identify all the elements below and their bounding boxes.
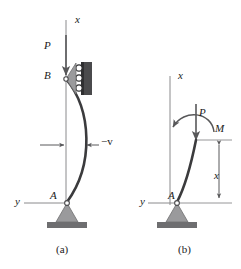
pin-support-b xyxy=(157,201,197,228)
pin-support-a xyxy=(47,201,87,228)
moment-label-m-b: M xyxy=(215,123,224,134)
load-label-p-b: P xyxy=(199,107,206,118)
figure-svg xyxy=(0,0,241,269)
deflection-label-a: −v xyxy=(101,136,113,147)
axis-y-label-b: y xyxy=(140,196,145,207)
axis-y-label-a: y xyxy=(15,196,20,207)
axis-x-label-a: x xyxy=(75,14,80,25)
node-label-b-a: B xyxy=(44,70,51,81)
roller-support-b xyxy=(64,62,92,95)
subfigure-b xyxy=(148,76,232,228)
caption-b: (b) xyxy=(178,243,191,255)
load-label-p-a: P xyxy=(44,40,51,51)
dimension-label-x-b: x xyxy=(214,170,219,181)
buckled-column-curve-a xyxy=(66,79,86,202)
buckled-column-segment-b xyxy=(177,140,196,202)
figure-root: x P B −v A y x P M x A y (a) (b) xyxy=(0,0,241,269)
node-label-a-b: A xyxy=(168,190,175,201)
axis-x-label-b: x xyxy=(178,70,183,81)
subfigure-a xyxy=(24,20,99,228)
moment-arrow-m-b xyxy=(173,115,214,132)
caption-a: (a) xyxy=(56,243,68,255)
node-label-a-a: A xyxy=(50,190,57,201)
